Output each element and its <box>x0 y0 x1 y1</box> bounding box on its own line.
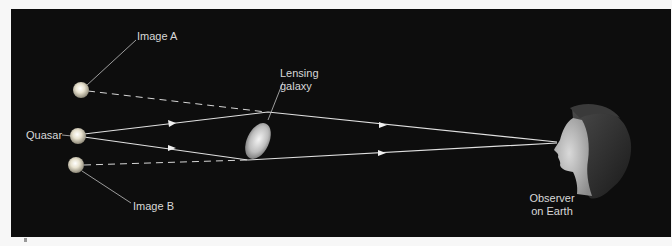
label-lensing-galaxy: Lensing galaxy <box>280 67 319 93</box>
label-lensing-line1: Lensing <box>280 67 319 80</box>
label-observer-line1: Observer <box>527 192 577 205</box>
arrow-icon <box>378 150 386 156</box>
label-lensing-line2: galaxy <box>280 80 319 93</box>
label-observer-line2: on Earth <box>527 205 577 218</box>
light-ray-lower <box>84 137 557 160</box>
observer-head-icon <box>554 104 631 199</box>
corner-mark <box>24 238 27 242</box>
label-image-a: Image A <box>137 30 177 43</box>
arrow-icon <box>379 122 387 128</box>
label-observer: Observer on Earth <box>527 192 577 218</box>
apparent-ray-a <box>88 91 266 112</box>
arrow-icon <box>168 120 176 127</box>
arrowheads <box>168 120 387 156</box>
image-b-dot <box>68 157 84 173</box>
apparent-ray-b <box>84 160 247 165</box>
image-a-dot <box>73 82 89 98</box>
lensing-galaxy <box>240 119 276 163</box>
light-ray-upper <box>84 112 557 142</box>
leader-lines <box>62 40 283 203</box>
label-image-b: Image B <box>133 200 174 213</box>
quasar-dot <box>70 128 86 144</box>
label-quasar: Quasar <box>26 129 62 142</box>
